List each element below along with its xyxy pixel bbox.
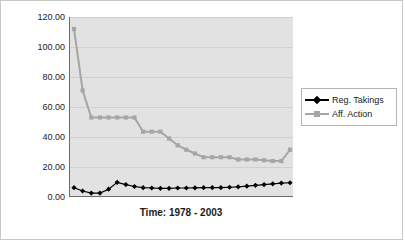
data-point-square xyxy=(288,148,292,152)
data-point-diamond xyxy=(149,185,154,190)
data-point-diamond xyxy=(270,181,275,186)
data-point-diamond xyxy=(89,191,94,196)
data-point-diamond xyxy=(244,184,249,189)
data-point-square xyxy=(132,115,136,119)
series-reg-takings xyxy=(71,180,292,196)
y-axis-tick-label: 100.00 xyxy=(25,43,65,52)
data-point-square xyxy=(279,159,283,163)
legend-diamond-icon xyxy=(313,96,321,104)
data-point-square xyxy=(89,115,93,119)
data-point-diamond xyxy=(123,182,128,187)
data-point-square xyxy=(158,130,162,134)
series-aff-action xyxy=(72,27,292,163)
data-point-square xyxy=(115,115,119,119)
plot-area xyxy=(69,17,293,197)
data-point-diamond xyxy=(166,186,171,191)
legend-item-aff-action[interactable]: Aff. Action xyxy=(305,107,393,121)
data-point-square xyxy=(193,151,197,155)
data-point-diamond xyxy=(97,191,102,196)
data-point-diamond xyxy=(132,184,137,189)
legend-swatch xyxy=(305,108,329,120)
chart-legend: Reg. TakingsAff. Action xyxy=(301,88,397,126)
data-point-square xyxy=(202,155,206,159)
data-point-diamond xyxy=(184,185,189,190)
data-point-square xyxy=(245,157,249,161)
data-point-square xyxy=(176,143,180,147)
data-point-diamond xyxy=(192,185,197,190)
series-line xyxy=(74,29,290,161)
y-axis-tick-labels: 120.00100.0080.0060.0040.0020.000.00 xyxy=(25,13,65,197)
legend-label: Aff. Action xyxy=(329,109,372,119)
legend-swatch xyxy=(305,94,329,106)
data-point-square xyxy=(106,115,110,119)
data-point-square xyxy=(141,130,145,134)
data-point-diamond xyxy=(261,182,266,187)
data-point-diamond xyxy=(210,185,215,190)
data-point-diamond xyxy=(287,180,292,185)
data-point-square xyxy=(210,155,214,159)
series-layer xyxy=(70,17,293,197)
data-point-diamond xyxy=(175,185,180,190)
legend-square-icon xyxy=(314,111,320,117)
legend-item-reg-takings[interactable]: Reg. Takings xyxy=(305,93,393,107)
series-line xyxy=(74,182,290,193)
data-point-square xyxy=(150,130,154,134)
data-point-square xyxy=(184,148,188,152)
data-point-square xyxy=(253,157,257,161)
data-point-diamond xyxy=(141,185,146,190)
data-point-diamond xyxy=(218,185,223,190)
data-point-square xyxy=(262,158,266,162)
y-axis-tick-label: 0.00 xyxy=(25,193,65,202)
data-point-diamond xyxy=(201,185,206,190)
y-axis-tick-label: 40.00 xyxy=(25,133,65,142)
data-point-square xyxy=(227,155,231,159)
data-point-square xyxy=(219,155,223,159)
x-axis-title: Time: 1978 - 2003 xyxy=(69,207,293,218)
data-point-square xyxy=(124,115,128,119)
data-point-diamond xyxy=(80,188,85,193)
data-point-diamond xyxy=(279,180,284,185)
data-point-square xyxy=(98,115,102,119)
data-point-diamond xyxy=(236,184,241,189)
chart-container: Average # Amici / Case 120.00100.0080.00… xyxy=(0,0,403,240)
data-point-diamond xyxy=(158,186,163,191)
y-axis-tick-label: 60.00 xyxy=(25,103,65,112)
data-point-diamond xyxy=(253,183,258,188)
data-point-square xyxy=(72,27,76,31)
data-point-diamond xyxy=(71,185,76,190)
data-point-square xyxy=(167,136,171,140)
legend-label: Reg. Takings xyxy=(329,95,384,105)
data-point-square xyxy=(81,88,85,92)
y-axis-tick-label: 120.00 xyxy=(25,13,65,22)
data-point-square xyxy=(271,159,275,163)
data-point-diamond xyxy=(227,185,232,190)
y-axis-tick-label: 80.00 xyxy=(25,73,65,82)
y-axis-tick-label: 20.00 xyxy=(25,163,65,172)
data-point-square xyxy=(236,157,240,161)
